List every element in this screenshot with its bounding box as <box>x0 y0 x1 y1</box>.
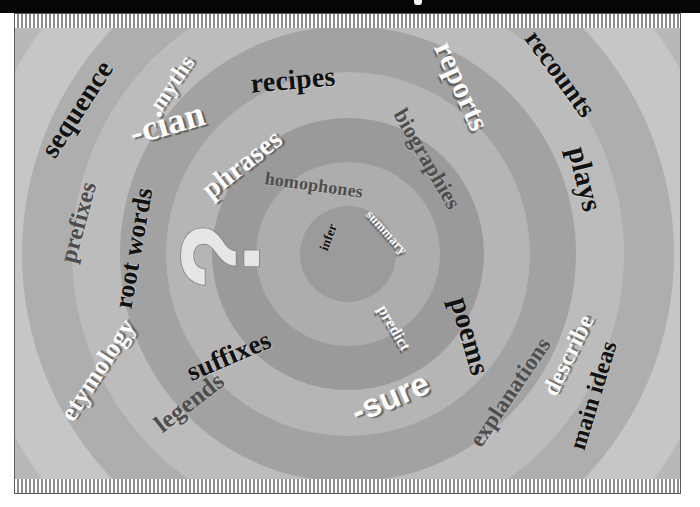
top-pinstripe-band <box>15 14 680 28</box>
word-recounts: recounts <box>520 26 601 123</box>
word-summary: summary <box>364 208 410 257</box>
poster-page: ? infersummarypredicthomophonesphrasessu… <box>0 0 700 507</box>
word-legends: legends <box>150 367 229 436</box>
word-prefixes: prefixes <box>56 179 101 265</box>
word-reports: reports <box>429 37 495 135</box>
word-biographies: biographies <box>389 105 464 213</box>
word-suffixes: suffixes <box>183 326 275 385</box>
word-recipes: recipes <box>250 62 337 97</box>
word-cloud: infersummarypredicthomophonesphrasessuff… <box>15 14 680 493</box>
masthead-descender-glyph <box>414 0 422 5</box>
word-sequence: sequence <box>36 56 119 163</box>
masthead-bar <box>0 0 700 13</box>
bottom-pinstripe-band <box>15 479 680 493</box>
word-infer: infer <box>317 222 339 252</box>
word-poems: poems <box>445 294 495 379</box>
poster-frame: ? infersummarypredicthomophonesphrasessu… <box>14 13 681 494</box>
word-plays: plays <box>563 144 607 215</box>
word-etymology: etymology <box>56 314 141 425</box>
word-homophones: homophones <box>264 169 365 201</box>
word-predict: predict <box>375 302 414 353</box>
word-rootwords: root words <box>111 186 158 311</box>
word-sure: -sure <box>346 366 434 428</box>
word-phrases: phrases <box>197 124 288 203</box>
